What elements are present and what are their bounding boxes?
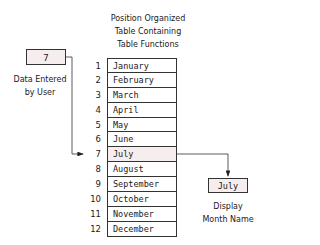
output-display-box: July <box>208 178 248 193</box>
output-label-line: Month Name <box>196 213 260 226</box>
row-to-output-arrow <box>177 154 228 176</box>
output-label-line: Display <box>196 200 260 213</box>
output-label: Display Month Name <box>196 200 260 226</box>
input-to-row-arrow <box>66 57 83 154</box>
